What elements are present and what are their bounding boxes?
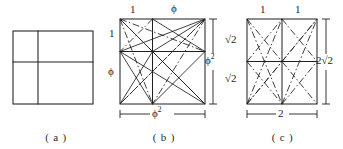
label-c-bottom: 2 xyxy=(278,108,284,119)
figure-panel-a: ( a ) xyxy=(0,0,112,149)
label-c-left-lower: √2 xyxy=(225,73,237,84)
caption-c: ( c ) xyxy=(222,131,343,143)
label-c-top-left: 1 xyxy=(260,4,266,15)
figure-panel-c: 1 1 √2 √2 2√2 2 ( c ) xyxy=(222,0,343,149)
label-b-left-lower: ϕ xyxy=(108,66,114,77)
label-b-left-upper: 1 xyxy=(109,28,115,39)
label-b-bottom-exponent: 2 xyxy=(158,105,162,114)
rect-a-outline xyxy=(13,31,93,104)
caption-b: ( b ) xyxy=(100,131,228,143)
figure-root: ( a ) xyxy=(0,0,343,149)
figure-a-drawing xyxy=(0,0,112,130)
dimension-b-bottom xyxy=(120,110,205,118)
label-b-right-exponent: 2 xyxy=(211,52,215,61)
rect-b-dashdot-2 xyxy=(120,19,153,104)
label-b-top-right: ϕ xyxy=(171,3,177,14)
rect-b-dashdot-6 xyxy=(153,19,206,104)
rect-b-diagonal-9 xyxy=(120,52,205,105)
label-b-top-left: 1 xyxy=(130,4,136,15)
label-b-right: ϕ2 xyxy=(205,55,215,66)
figure-panel-b: 1 ϕ 1 ϕ ϕ2 ϕ2 ( b ) xyxy=(100,0,228,149)
label-b-bottom: ϕ2 xyxy=(152,108,162,119)
label-c-left-upper: √2 xyxy=(225,34,237,45)
caption-a: ( a ) xyxy=(0,131,112,143)
label-c-top-right: 1 xyxy=(295,4,301,15)
label-c-right: 2√2 xyxy=(316,55,333,66)
